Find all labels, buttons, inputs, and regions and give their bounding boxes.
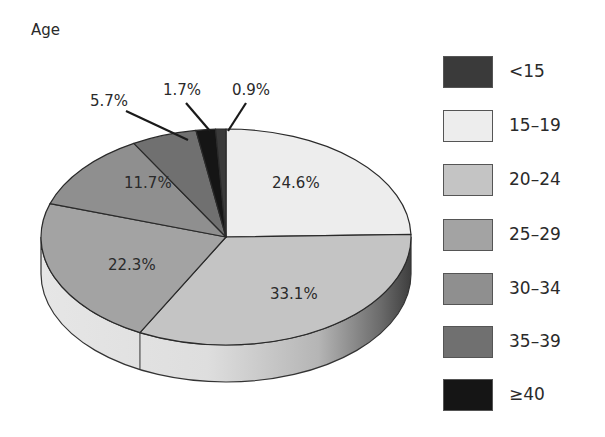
- legend-item-15-19: 15–19: [443, 110, 603, 144]
- label-under-15: 0.9%: [232, 81, 270, 99]
- legend-label: ≥40: [509, 384, 545, 404]
- label-15-19: 24.6%: [272, 174, 320, 192]
- label-25-29: 22.3%: [108, 256, 156, 274]
- label-40: 1.7%: [163, 81, 201, 99]
- legend-label: <15: [509, 61, 545, 81]
- legend-label: 35–39: [509, 331, 561, 351]
- label-30-34: 11.7%: [124, 174, 172, 192]
- legend-swatch: [443, 326, 493, 358]
- legend-swatch: [443, 56, 493, 88]
- legend-item-30-34: 30–34: [443, 273, 603, 307]
- legend-item-40-plus: ≥40: [443, 379, 603, 413]
- legend-swatch: [443, 164, 493, 196]
- legend-swatch: [443, 110, 493, 142]
- legend-label: 15–19: [509, 115, 561, 135]
- leader-line-35-39: [126, 111, 188, 140]
- legend-item-35-39: 35–39: [443, 326, 603, 360]
- leader-line-under-15: [228, 103, 246, 131]
- legend-swatch: [443, 219, 493, 251]
- legend-swatch: [443, 273, 493, 305]
- legend-label: 20–24: [509, 169, 561, 189]
- leader-line-40: [186, 103, 210, 131]
- label-20-24: 33.1%: [270, 285, 318, 303]
- legend-label: 25–29: [509, 224, 561, 244]
- label-35-39: 5.7%: [90, 92, 128, 110]
- legend-item-under-15: <15: [443, 56, 603, 90]
- legend-label: 30–34: [509, 278, 561, 298]
- pie-slices: [41, 129, 411, 345]
- legend-swatch: [443, 379, 493, 411]
- legend-item-20-24: 20–24: [443, 164, 603, 198]
- legend-item-25-29: 25–29: [443, 219, 603, 253]
